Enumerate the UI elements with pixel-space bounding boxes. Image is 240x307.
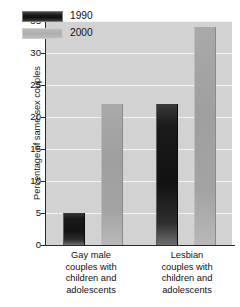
y-tick-label: 5	[3, 207, 41, 218]
plot-inner	[46, 21, 232, 245]
x-category-line: couples with	[144, 262, 230, 274]
y-tick	[41, 117, 46, 118]
y-tick	[41, 245, 46, 246]
y-tick-label: 0	[3, 239, 41, 250]
plot-area	[46, 21, 232, 245]
x-axis-line	[45, 245, 235, 246]
y-tick	[41, 149, 46, 150]
x-category-line: couples with	[48, 262, 134, 274]
y-tick	[41, 213, 46, 214]
y-tick	[41, 85, 46, 86]
x-category-line: children and	[48, 273, 134, 285]
y-tick-label: 25	[3, 79, 41, 90]
y-tick-label: 15	[3, 143, 41, 154]
bar-chart: Percentage of same-sex couples 051015202…	[0, 0, 240, 307]
bar-2000-group0	[101, 104, 123, 245]
y-tick-label: 30	[3, 47, 41, 58]
bar-1990-group1	[156, 104, 178, 245]
legend-label-1990: 1990	[70, 10, 93, 21]
x-category-label-1: Lesbian couples with children and adoles…	[144, 250, 230, 296]
x-category-line: Lesbian	[144, 250, 230, 262]
x-category-line: adolescents	[48, 285, 134, 297]
y-tick-label: 20	[3, 111, 41, 122]
y-tick-label: 10	[3, 175, 41, 186]
y-axis-title: Percentage of same-sex couples	[32, 33, 42, 233]
legend-swatch-2000	[22, 28, 63, 39]
x-category-line: Gay male	[48, 250, 134, 262]
y-tick	[41, 53, 46, 54]
y-tick	[41, 181, 46, 182]
legend-label-2000: 2000	[70, 27, 93, 38]
legend-swatch-1990	[22, 11, 63, 22]
gridline	[46, 21, 232, 22]
x-axis-category-labels: Gay male couples with children and adole…	[46, 250, 232, 305]
x-category-label-0: Gay male couples with children and adole…	[48, 250, 134, 296]
bar-1990-group0	[63, 213, 85, 245]
bar-2000-group1	[194, 27, 216, 245]
x-category-line: children and	[144, 273, 230, 285]
x-category-line: adolescents	[144, 285, 230, 297]
